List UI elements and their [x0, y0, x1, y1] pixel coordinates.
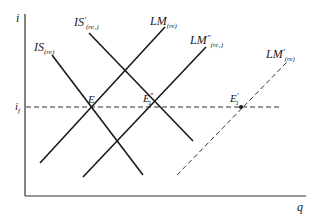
lm-double-prime-curve-label: LM″(re₁) [189, 33, 224, 49]
is-lm-diagram: i q if IS(re) IS′(re₁) LM(re) LM″(re₁) L… [0, 0, 317, 215]
is-curve-label: IS(re) [33, 40, 55, 56]
e1p-subscript: 1 [235, 99, 239, 107]
is-curve [52, 55, 143, 175]
if-subscript: f [18, 107, 21, 115]
lm-curve-label: LM(re) [149, 14, 178, 30]
point-e1-prime-dot [239, 105, 243, 109]
lm-double-prime-curve [83, 47, 206, 177]
point-e1-prime-label: E′1 [229, 92, 239, 107]
lm-prime-label-base: LM [265, 47, 284, 61]
lm-label-subscript: (re) [167, 22, 178, 30]
is-prime-label-subscript: (re₁) [86, 23, 99, 31]
is-label-base: IS [33, 40, 44, 54]
interest-rate-foreign-label: if [15, 100, 21, 115]
lm-label-base: LM [149, 14, 168, 28]
y-axis-label: i [16, 11, 19, 25]
lm-prime-label-subscript: (re) [285, 55, 296, 63]
lm-double-prime-label-base: LM [189, 33, 208, 47]
lm-double-prime-label-subscript: (re₁) [210, 41, 223, 49]
point-e-label: E [87, 93, 95, 105]
is-prime-label-base: IS [73, 15, 84, 29]
is-label-subscript: (re) [44, 48, 55, 56]
e1pp-subscript: 1 [148, 99, 152, 107]
x-axis-label: q [297, 200, 303, 214]
lm-prime-curve-label: LM′(re) [265, 47, 296, 63]
lm-prime-curve [177, 62, 287, 175]
is-prime-curve-label: IS′(re₁) [73, 15, 99, 31]
